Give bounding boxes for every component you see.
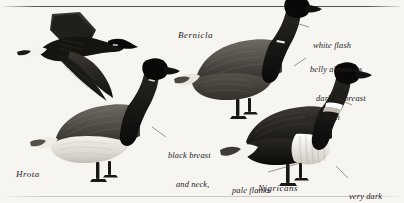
annotation-line: belly almost as [310,65,366,75]
leader-belly-dark [294,58,306,66]
annotation-black-breast: black breast and neck, pale belly [168,132,216,203]
bird-hrota [30,58,180,182]
bird-bernicla [174,0,322,119]
annotation-line: and neck, [168,180,216,190]
annotation-line: bold flash [305,113,340,123]
bird-flying-brant [17,12,138,101]
taxon-label-hrota: Hrota [16,170,40,180]
illustration-plate: Hrota Bernicla Nigricans white flash bel… [0,0,404,203]
annotation-line: very dark [349,192,382,202]
annotation-pale-flanks: pale flanks [232,167,270,203]
annotation-bold-flash: bold flash [305,94,340,142]
annotation-line: black breast [168,151,216,161]
taxon-label-bernicla: Bernicla [178,31,213,41]
leader-very-dark [336,166,348,178]
annotation-line: pale flanks [232,186,270,196]
leader-black-breast [152,127,166,137]
annotation-very-dark: very dark [349,173,382,203]
